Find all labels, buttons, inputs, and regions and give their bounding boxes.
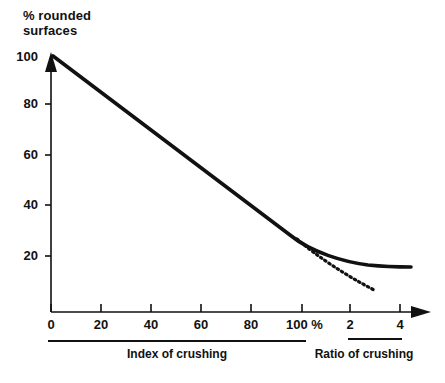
x-tick-label-20: 20 <box>81 318 121 332</box>
ratio-of-crushing-caption: Ratio of crushing <box>294 347 434 361</box>
y-tick-label-100: 100 <box>8 50 38 64</box>
x-tick-label-40: 40 <box>131 318 171 332</box>
chart-figure: % roundedsurfaces <box>0 0 445 383</box>
y-tick-label-40: 40 <box>8 198 38 212</box>
data-series-solid-curve <box>53 56 411 267</box>
y-tick-label-20: 20 <box>8 249 38 263</box>
x-axis-ticks <box>51 304 400 312</box>
y-axis-ticks <box>45 104 51 256</box>
y-tick-label-60: 60 <box>8 148 38 162</box>
x-tick-label-60: 60 <box>181 318 221 332</box>
x-axis-arrowhead-icon <box>411 306 431 318</box>
index-of-crushing-caption: Index of crushing <box>97 347 257 361</box>
x-tick-label-ratio-2: 2 <box>330 318 370 332</box>
y-axis-arrowhead-icon <box>45 52 57 72</box>
y-tick-label-80: 80 <box>8 97 38 111</box>
x-tick-label-100-percent: 100 % <box>286 318 336 332</box>
x-tick-label-ratio-4: 4 <box>380 318 420 332</box>
x-tick-label-0: 0 <box>31 318 71 332</box>
x-tick-label-80: 80 <box>231 318 271 332</box>
